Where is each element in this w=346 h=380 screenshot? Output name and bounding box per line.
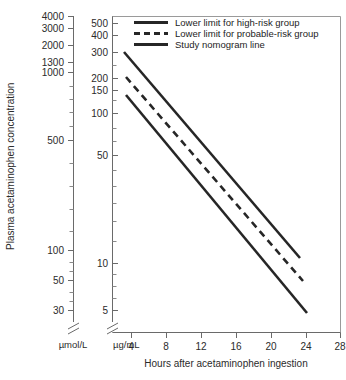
chart-figure: Plasma acetaminophen concentration — [0, 0, 346, 380]
y-right-tick-label: 500 — [91, 18, 108, 29]
y-left-tick-label: 1000 — [42, 67, 65, 78]
legend: Lower limit for high-risk group Lower li… — [134, 17, 319, 50]
nomogram-chart-svg: Plasma acetaminophen concentration — [0, 0, 346, 380]
x-tick-label: 28 — [334, 341, 346, 352]
y-right-tick-label: 10 — [97, 258, 109, 269]
y-left-tick-label: 100 — [47, 245, 64, 256]
x-tick-label: 16 — [230, 341, 242, 352]
series-line-high-risk — [124, 52, 300, 258]
y-right-tick-label: 300 — [91, 47, 108, 58]
plot-frame — [113, 17, 341, 333]
y-right-tick-label: 100 — [91, 108, 108, 119]
y-right-tick-label: 5 — [102, 305, 108, 316]
y-left-tick-label: 50 — [53, 275, 65, 286]
legend-label-study-nomogram: Study nomogram line — [175, 39, 265, 50]
y-left-tick-label: 3000 — [42, 23, 65, 34]
y-left-tick-label: 4000 — [42, 11, 65, 22]
y-axis-left-tick-labels: 4000 3000 2000 1300 1000 500 100 50 30 — [42, 11, 65, 316]
legend-label-probable-risk: Lower limit for probable-risk group — [175, 28, 319, 39]
x-axis-tick-labels: 4 8 12 16 20 24 28 — [128, 341, 346, 352]
y-left-tick-label: 2000 — [42, 40, 65, 51]
y-axis-left: 4000 3000 2000 1300 1000 500 100 50 30 µ… — [42, 11, 88, 350]
y-axis-right-tick-labels: 500 400 300 200 150 100 50 10 5 — [91, 18, 108, 316]
y-axis-right-unit-label: µg/mL — [113, 339, 140, 350]
x-axis-ticks — [132, 333, 341, 339]
legend-label-high-risk: Lower limit for high-risk group — [175, 17, 300, 28]
y-right-tick-label: 150 — [91, 85, 108, 96]
y-axis-left-break-mark — [68, 323, 79, 334]
y-left-tick-label: 30 — [53, 305, 65, 316]
series-line-probable-risk — [126, 77, 303, 281]
x-tick-label: 8 — [163, 341, 169, 352]
y-right-tick-label: 50 — [97, 150, 109, 161]
x-tick-label: 4 — [128, 341, 134, 352]
y-axis-title-group: Plasma acetaminophen concentration — [5, 83, 16, 250]
y-right-tick-label: 400 — [91, 30, 108, 41]
x-tick-label: 12 — [195, 341, 207, 352]
y-axis-right: 500 400 300 200 150 100 50 10 5 µg/mL — [91, 16, 139, 350]
y-left-tick-label: 500 — [47, 135, 64, 146]
data-series-group — [124, 52, 307, 313]
series-line-study-nomogram — [126, 95, 307, 313]
y-axis-right-major-ticks — [113, 24, 119, 311]
y-axis-title: Plasma acetaminophen concentration — [5, 83, 16, 250]
x-tick-label: 24 — [300, 341, 312, 352]
y-axis-left-minor-ticks — [70, 87, 74, 302]
x-tick-label: 20 — [265, 341, 277, 352]
y-axis-left-unit-label: µmol/L — [59, 339, 88, 350]
y-right-tick-label: 200 — [91, 73, 108, 84]
x-axis: 4 8 12 16 20 24 28 Hours after acetamino… — [113, 333, 346, 370]
x-axis-title: Hours after acetaminophen ingestion — [144, 358, 307, 369]
